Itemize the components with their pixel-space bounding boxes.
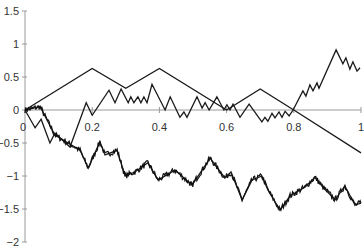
x-tick-label: 1: [358, 121, 364, 133]
y-tick-label: 0: [13, 104, 19, 116]
series-line-2: [25, 107, 361, 211]
y-tick-label: −2: [6, 236, 19, 246]
y-tick-label: 1.5: [4, 5, 19, 17]
x-tick-label: 0: [20, 121, 26, 133]
y-tick-label: −1.5: [0, 203, 19, 215]
x-tick-label: 0.2: [85, 121, 100, 133]
x-tick-label: 0.4: [152, 121, 167, 133]
x-tick-label: 0.6: [219, 121, 234, 133]
series-line-0: [25, 68, 361, 152]
y-tick-label: 0.5: [4, 71, 19, 83]
y-tick-label: 1: [13, 38, 19, 50]
axes: 1.510.50−0.5−1−1.5−200.20.40.60.81: [0, 5, 364, 246]
y-tick-label: −1: [6, 170, 19, 182]
line-chart: 1.510.50−0.5−1−1.5−200.20.40.60.81: [0, 0, 364, 246]
x-tick-label: 0.8: [286, 121, 301, 133]
series-line-1: [25, 50, 360, 147]
y-tick-label: −0.5: [0, 137, 19, 149]
series-layer: [25, 50, 361, 210]
